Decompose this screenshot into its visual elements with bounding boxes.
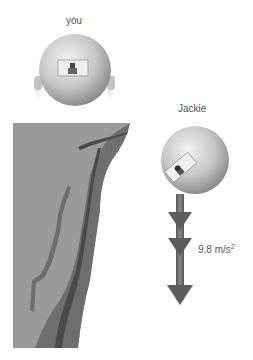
gravity-arrow-icon [167, 194, 193, 305]
jackie-sphere [161, 126, 229, 194]
diagram-canvas: you Jackie 9.8 m/s2 [0, 0, 253, 360]
you-sphere [34, 34, 115, 108]
label-jackie: Jackie [178, 103, 206, 114]
label-acceleration: 9.8 m/s2 [198, 243, 235, 255]
cliff [13, 123, 130, 348]
acceleration-exponent: 2 [231, 243, 235, 250]
acceleration-value: 9.8 m/s [198, 244, 231, 255]
label-you: you [66, 15, 82, 26]
diagram-svg [0, 0, 253, 360]
